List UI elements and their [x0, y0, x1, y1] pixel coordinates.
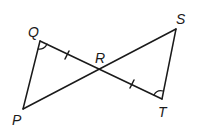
angle-arc-t: [154, 91, 163, 95]
segment-st: [162, 29, 176, 99]
geometry-diagram: Q R S T P: [0, 0, 200, 137]
point-label-t: T: [158, 104, 168, 120]
segment-pq: [23, 41, 40, 109]
segment-ps: [23, 29, 176, 109]
point-label-q: Q: [28, 24, 39, 40]
point-label-r: R: [95, 50, 105, 66]
point-label-p: P: [12, 112, 22, 128]
point-label-s: S: [176, 11, 186, 27]
